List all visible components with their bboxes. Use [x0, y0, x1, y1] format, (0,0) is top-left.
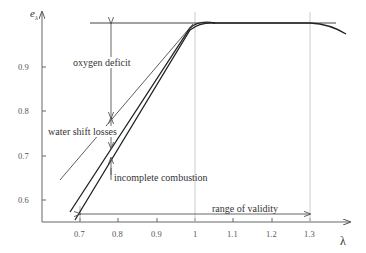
x-tick-label: 0.7 — [74, 229, 85, 239]
y-tick-label: 0.9 — [18, 62, 29, 72]
x-tick-label: 1.3 — [304, 229, 315, 239]
y-tick-label: 0.6 — [18, 195, 29, 205]
y-axis-label: eλ — [30, 8, 38, 24]
water-shift-losses-label: water shift losses — [48, 126, 117, 137]
x-tick-label: 1.1 — [227, 229, 238, 239]
efficiency-curve-b — [75, 23, 215, 220]
incomplete-combustion-label: incomplete combustion — [114, 172, 208, 183]
range-of-validity-label: range of validity — [212, 203, 278, 214]
x-tick-label: 0.8 — [112, 229, 123, 239]
x-tick-label: 1 — [193, 229, 197, 239]
y-tick-label: 0.7 — [18, 151, 29, 161]
x-tick-label: 0.9 — [151, 229, 162, 239]
x-axis-label: λ — [340, 236, 346, 247]
y-tick-label: 0.8 — [18, 106, 29, 116]
theoretical-curve — [60, 24, 193, 180]
x-tick-label: 1.2 — [266, 229, 277, 239]
y-ticks — [42, 67, 46, 200]
oxygen-deficit-label: oxygen deficit — [73, 57, 130, 68]
